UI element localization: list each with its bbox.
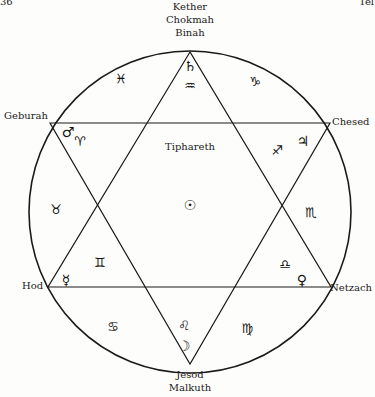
- aries-icon: ♈: [74, 135, 86, 149]
- virgo-icon: ♍: [241, 322, 253, 336]
- sun-icon: ☉: [184, 198, 197, 212]
- jupiter-icon: ♃: [297, 134, 310, 148]
- label-tiphareth: Tiphareth: [165, 141, 215, 153]
- label-geburah: Geburah: [4, 110, 48, 122]
- venus-icon: ♀: [297, 273, 307, 287]
- capricorn-icon: ♑: [249, 75, 261, 89]
- sagittarius-icon: ♐: [271, 144, 283, 158]
- label-kether: Kether: [173, 1, 207, 13]
- mars-icon: ♂: [62, 125, 75, 139]
- label-malkuth: Malkuth: [169, 382, 211, 394]
- label-binah: Binah: [175, 27, 204, 39]
- gemini-icon: ♊: [94, 256, 106, 270]
- page-number: 36: [0, 0, 13, 8]
- leo-icon: ♌: [178, 319, 190, 333]
- label-chesed: Chesed: [332, 116, 369, 128]
- moon-icon: ☽: [178, 339, 191, 353]
- libra-icon: ♎: [279, 258, 291, 272]
- label-jesod: Jesod: [176, 369, 203, 381]
- cancer-icon: ♋: [107, 320, 119, 334]
- mercury-icon: ☿: [62, 273, 71, 287]
- pisces-icon: ♓: [115, 72, 127, 86]
- saturn-icon: ♄: [184, 59, 197, 73]
- label-chokmah: Chokmah: [166, 14, 214, 26]
- downward-triangle: [50, 123, 330, 364]
- running-header: Tel: [359, 0, 374, 8]
- aquarius-icon: ♒: [184, 79, 196, 93]
- label-hod: Hod: [22, 280, 43, 292]
- taurus-icon: ♉: [50, 203, 62, 217]
- scorpio-icon: ♏: [305, 206, 317, 220]
- label-netzach: Netzach: [330, 282, 372, 294]
